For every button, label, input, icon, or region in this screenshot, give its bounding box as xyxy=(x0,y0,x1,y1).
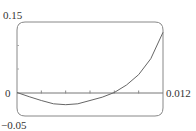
y-tick-label-top: 0.15 xyxy=(3,9,22,21)
plot-area xyxy=(0,0,196,131)
frame xyxy=(17,22,163,116)
y-tick-label-zero: 0 xyxy=(5,87,11,99)
x-tick-label-right: 0.012 xyxy=(166,87,191,99)
y-tick-label-bottom: −0.05 xyxy=(1,119,26,131)
data-curve xyxy=(17,32,163,104)
